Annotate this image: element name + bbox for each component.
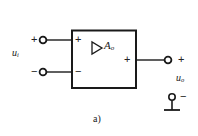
block-input-negative-sign: − (75, 66, 81, 77)
gain-symbol: A (104, 39, 111, 51)
figure-caption: a) (93, 114, 101, 124)
output-positive-sign: + (178, 54, 184, 65)
input-terminal-negative[interactable] (40, 69, 47, 76)
gain-label: Ao (104, 40, 114, 52)
figure-amplifier-block-diagram: + − ui + − + Ao + uo − a) (0, 0, 198, 136)
input-positive-sign: + (31, 34, 37, 45)
input-terminal-positive[interactable] (40, 37, 47, 44)
ground-negative-sign: − (180, 91, 186, 102)
block-output-positive-sign: + (124, 54, 130, 65)
input-voltage-subscript: i (17, 51, 19, 58)
ground-terminal[interactable] (169, 94, 175, 100)
output-voltage-subscript: o (181, 76, 184, 83)
gain-subscript: o (111, 44, 115, 52)
output-terminal-positive[interactable] (165, 57, 172, 64)
output-voltage-label: uo (176, 73, 184, 84)
input-voltage-label: ui (12, 48, 19, 59)
amplifier-triangle-icon (92, 42, 102, 54)
block-input-positive-sign: + (75, 34, 81, 45)
input-negative-sign: − (31, 66, 37, 77)
